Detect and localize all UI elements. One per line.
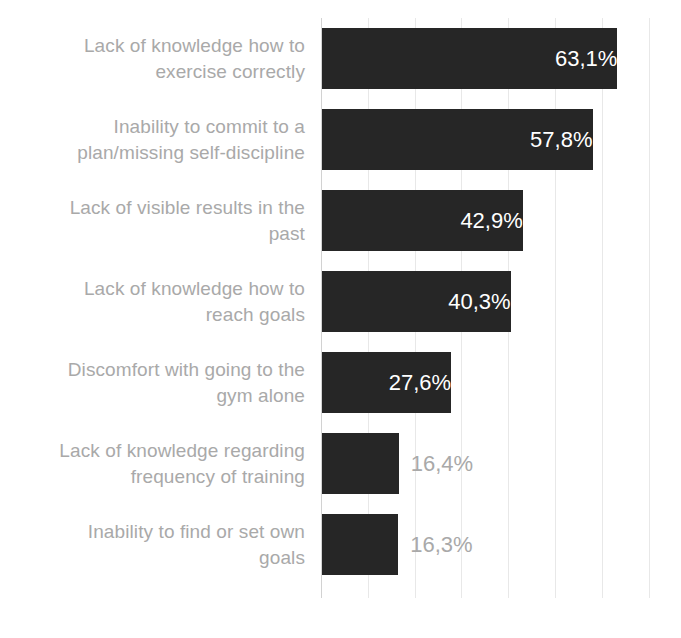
bar-row: 16,3%	[321, 504, 651, 585]
bar-row: 40,3%	[321, 261, 651, 342]
bar-value-label: 16,4%	[399, 433, 473, 494]
category-label-line1: Lack of knowledge how to	[84, 33, 305, 59]
bar-row: 27,6%	[321, 342, 651, 423]
bar-rows: 63,1%57,8%42,9%40,3%27,6%16,4%16,3%	[321, 18, 651, 598]
plot-area: 63,1%57,8%42,9%40,3%27,6%16,4%16,3%	[321, 18, 651, 598]
bar[interactable]	[322, 514, 398, 575]
bar-value-label: 40,3%	[322, 271, 525, 332]
category-label-line1: Inability to commit to a	[77, 114, 305, 140]
category-label-line1: Lack of knowledge regarding	[59, 438, 305, 464]
category-label-line1: Lack of visible results in the	[70, 195, 305, 221]
bar-row: 63,1%	[321, 18, 651, 99]
category-label-line1: Lack of knowledge how to	[84, 276, 305, 302]
bar-chart: Lack of knowledge how to exercise correc…	[0, 0, 681, 638]
bar-row: 42,9%	[321, 180, 651, 261]
category-label-line2: plan/missing self-discipline	[77, 140, 305, 166]
bar-row: 16,4%	[321, 423, 651, 504]
category-label-line1: Inability to find or set own	[88, 519, 305, 545]
bar-value-label: 63,1%	[322, 28, 631, 89]
category-label: Lack of knowledge regarding frequency of…	[0, 423, 305, 504]
category-label: Lack of knowledge how to reach goals	[0, 261, 305, 342]
bar-value-label: 42,9%	[322, 190, 537, 251]
category-label: Inability to find or set own goals	[0, 504, 305, 585]
bar-value-label: 16,3%	[398, 514, 472, 575]
bar-row: 57,8%	[321, 99, 651, 180]
category-label-line2: past	[70, 221, 305, 247]
category-label-line2: frequency of training	[59, 464, 305, 490]
category-label: Lack of visible results in the past	[0, 180, 305, 261]
category-label: Lack of knowledge how to exercise correc…	[0, 18, 305, 99]
bar-value-label: 27,6%	[322, 352, 465, 413]
bar-value-label: 57,8%	[322, 109, 607, 170]
category-label: Discomfort with going to the gym alone	[0, 342, 305, 423]
category-axis-labels: Lack of knowledge how to exercise correc…	[0, 18, 305, 598]
category-label-line2: reach goals	[84, 302, 305, 328]
category-label-line1: Discomfort with going to the	[68, 357, 305, 383]
bar[interactable]	[322, 433, 399, 494]
category-label: Inability to commit to a plan/missing se…	[0, 99, 305, 180]
category-label-line2: exercise correctly	[84, 59, 305, 85]
category-label-line2: goals	[88, 545, 305, 571]
category-label-line2: gym alone	[68, 383, 305, 409]
